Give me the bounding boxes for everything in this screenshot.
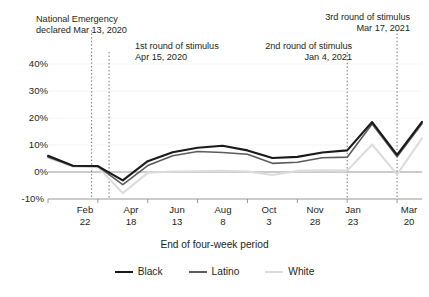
x-axis-tick-month: Apr	[108, 204, 154, 216]
chart-legend: Black Latino White	[0, 267, 429, 277]
legend-swatch-black	[115, 271, 133, 273]
x-axis-tick-day: 3	[246, 216, 292, 228]
y-axis-tick-40: 40%	[8, 58, 48, 69]
y-axis-tick-30: 30%	[8, 85, 48, 96]
legend-label-latino: Latino	[212, 267, 240, 277]
x-axis-tick-day: 13	[154, 216, 200, 228]
legend-swatch-white	[265, 271, 283, 273]
x-axis-tick-month: Jan	[330, 204, 376, 216]
x-axis-tick-day: 18	[108, 216, 154, 228]
annotation-national-emergency: National Emergency declared Mar 13, 2020	[36, 14, 127, 37]
x-axis-tick-jan-23: Jan 23	[330, 204, 376, 227]
x-axis-tick-apr-18: Apr 18	[108, 204, 154, 227]
y-axis-tick-10: 10%	[8, 139, 48, 150]
legend-item-black: Black	[115, 267, 163, 277]
x-axis-tick-oct-3: Oct 3	[246, 204, 292, 227]
y-axis-tick-0: 0%	[8, 166, 48, 177]
series-line-white	[48, 138, 422, 193]
series-line-latino	[48, 124, 422, 185]
legend-item-latino: Latino	[189, 267, 240, 277]
x-axis-tick-month: Aug	[200, 204, 246, 216]
x-axis-tick-day: 8	[200, 216, 246, 228]
annotation-stimulus-round-1: 1st round of stimulus Apr 15, 2020	[135, 41, 219, 64]
y-axis-tick-neg10: -10%	[4, 193, 44, 204]
legend-label-white: White	[288, 267, 314, 277]
x-axis-tick-mar-20: Mar 20	[386, 204, 429, 227]
x-axis-tick-month: Jun	[154, 204, 200, 216]
y-axis-tick-20: 20%	[8, 112, 48, 123]
x-axis-tick-day: 23	[330, 216, 376, 228]
line-chart: 40% 30% 20% 10% 0% -10% Feb 22 Apr 18 Ju…	[0, 0, 429, 297]
x-axis-title: End of four-week period	[0, 239, 429, 250]
x-axis-tick-day: 20	[386, 216, 429, 228]
legend-swatch-latino	[189, 271, 207, 273]
annotation-stimulus-round-3: 3rd round of stimulus Mar 17, 2021	[325, 12, 410, 35]
x-axis-tick-jun-13: Jun 13	[154, 204, 200, 227]
x-axis-tick-month: Mar	[386, 204, 429, 216]
x-axis-tick-feb-22: Feb 22	[62, 204, 108, 227]
annotation-stimulus-round-2: 2nd round of stimulus Jan 4, 2021	[265, 41, 352, 64]
x-axis-tick-month: Feb	[62, 204, 108, 216]
x-axis-tick-day: 22	[62, 216, 108, 228]
x-axis-tick-aug-8: Aug 8	[200, 204, 246, 227]
x-axis-tick-month: Oct	[246, 204, 292, 216]
legend-label-black: Black	[138, 267, 163, 277]
legend-item-white: White	[265, 267, 314, 277]
